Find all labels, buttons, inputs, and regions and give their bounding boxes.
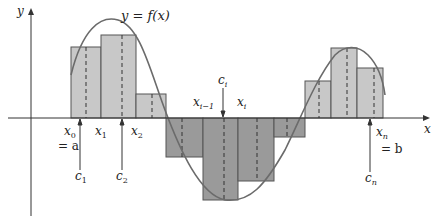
label-x2: x2 bbox=[131, 124, 143, 140]
riemann-rectangle bbox=[331, 48, 357, 118]
riemann-rectangle bbox=[136, 94, 166, 118]
label-c1: c1 bbox=[75, 169, 87, 185]
y-axis-arrow-icon bbox=[28, 8, 34, 15]
riemann-sum-diagram: y x y = f(x) x0 = a x1 x2 xi−1 xi xn = b… bbox=[0, 0, 433, 220]
riemann-rectangle bbox=[238, 118, 274, 181]
label-cn: cn bbox=[365, 171, 377, 187]
riemann-rectangle bbox=[357, 68, 383, 118]
label-x1: x1 bbox=[95, 124, 107, 140]
label-x0: x0 bbox=[64, 124, 76, 140]
x-axis-label: x bbox=[424, 122, 431, 136]
label-eq-b: = b bbox=[381, 142, 403, 156]
x-axis-arrow-icon bbox=[423, 115, 430, 121]
riemann-rectangle bbox=[274, 118, 305, 137]
label-xn: xn bbox=[376, 125, 388, 141]
riemann-rectangle bbox=[101, 35, 136, 118]
label-c2: c2 bbox=[116, 169, 128, 185]
function-label: y = f(x) bbox=[120, 8, 170, 23]
riemann-rectangle bbox=[166, 118, 203, 157]
label-eq-a: = a bbox=[58, 139, 79, 153]
riemann-rectangle bbox=[203, 118, 238, 200]
y-axis-label: y bbox=[16, 4, 24, 18]
label-x-i-minus-1: xi−1 bbox=[193, 95, 214, 111]
label-ci: ci bbox=[218, 73, 228, 89]
label-x-i: xi bbox=[237, 95, 247, 111]
